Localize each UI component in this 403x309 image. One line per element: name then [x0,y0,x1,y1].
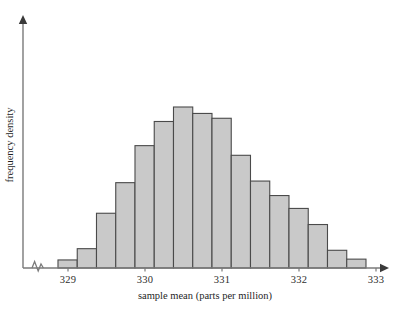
x-tick-label: 332 [291,274,308,285]
x-axis-title: sample mean (parts per million) [138,290,273,302]
histogram-bar [58,260,77,268]
histogram-bar [250,181,269,268]
histogram-figure: 329330331332333sample mean (parts per mi… [0,0,403,309]
histogram-bar [77,249,96,268]
axis-break-zigzag-icon [32,262,43,272]
histogram-bar [193,113,212,268]
histogram-bar [308,225,327,268]
histogram-bar [173,107,192,268]
histogram-bar [270,196,289,268]
x-tick-label: 331 [214,274,231,285]
arrow-up-icon [19,15,27,24]
x-tick-label: 333 [368,274,385,285]
histogram-bar [135,146,154,268]
histogram-plot-area: 329330331332333sample mean (parts per mi… [0,0,403,309]
histogram-bar [347,259,366,268]
histogram-bar [289,208,308,268]
histogram-bar [231,155,250,268]
x-tick-label: 329 [60,274,77,285]
arrow-right-icon [380,264,389,272]
histogram-bar [327,250,346,268]
bars-group [58,107,366,268]
x-tick-group: 329330331332333 [60,268,385,285]
y-axis-title: frequency density [4,107,15,183]
x-tick-label: 330 [137,274,154,285]
histogram-bar [212,118,231,268]
histogram-bar [96,213,115,268]
histogram-bar [154,121,173,268]
histogram-bar [116,183,135,268]
